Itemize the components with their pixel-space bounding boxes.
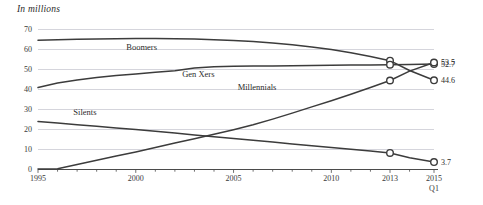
series-line-silents	[38, 122, 434, 163]
y-tick-label: 30	[24, 105, 32, 114]
data-point-marker	[387, 61, 394, 68]
series-label-millennials: Millennials	[238, 82, 277, 92]
x-axis	[38, 170, 438, 173]
y-axis-tick-labels: 010203040506070	[24, 25, 32, 174]
x-tick-label: 2000	[128, 174, 144, 183]
line-chart-canvas: 010203040506070 199520002005201020132015…	[0, 0, 483, 205]
series-line-millennials	[38, 63, 434, 169]
y-tick-label: 50	[24, 65, 32, 74]
data-point-marker	[431, 59, 438, 66]
x-tick-label: 2010	[323, 174, 339, 183]
end-value-labels: 44.652.753.53.7	[441, 58, 455, 167]
series-label-gen-xers: Gen Xers	[182, 69, 214, 79]
gridlines	[38, 30, 434, 150]
data-point-marker	[431, 159, 438, 166]
data-point-marker	[431, 77, 438, 84]
data-point-marker	[387, 77, 394, 84]
y-tick-label: 70	[24, 25, 32, 34]
y-tick-label: 20	[24, 125, 32, 134]
series-line-boomers	[38, 39, 434, 81]
end-value-millennials: 53.5	[441, 58, 455, 67]
data-point-marker	[387, 150, 394, 157]
y-tick-label: 60	[24, 45, 32, 54]
x-tick-label: 2013	[382, 174, 398, 183]
end-value-boomers: 44.6	[441, 76, 455, 85]
x-tick-label: 1995	[30, 174, 46, 183]
series-inline-labels: BoomersGen XersMillennialsSilents	[73, 42, 276, 117]
y-tick-label: 10	[24, 145, 32, 154]
x-tick-label: 2015Q1	[426, 174, 442, 193]
chart-figure: In millions 010203040506070 199520002005…	[0, 0, 483, 205]
x-tick-label: 2005	[226, 174, 242, 183]
series-label-boomers: Boomers	[126, 42, 157, 52]
y-tick-label: 40	[24, 85, 32, 94]
series-line-gen-xers	[38, 64, 434, 87]
series-label-silents: Silents	[73, 107, 96, 117]
x-axis-tick-labels: 199520002005201020132015Q1	[30, 174, 442, 193]
end-value-silents: 3.7	[441, 158, 451, 167]
